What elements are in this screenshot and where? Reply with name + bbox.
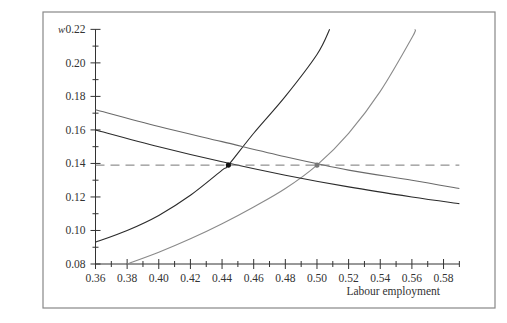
x-tick-label: 0.54 [370,272,390,284]
y-axis-title: w [58,24,65,35]
x-tick-label: 0.44 [212,272,232,284]
chart-figure: 0.360.380.400.420.440.460.480.500.520.54… [0,0,507,323]
y-tick-label: 0.08 [65,258,85,270]
x-tick-label: 0.36 [85,272,105,284]
x-tick-label: 0.52 [339,272,359,284]
x-tick-label: 0.42 [180,272,200,284]
x-tick-label: 0.58 [433,272,453,284]
equilibrium-dark-point [226,163,231,168]
x-tick-label: 0.38 [117,272,137,284]
x-tick-label: 0.48 [275,272,295,284]
x-tick-label: 0.46 [244,272,264,284]
y-tick-label: 0.22 [65,23,85,35]
x-axis-title: Labour employment [346,285,440,298]
y-tick-label: 0.14 [65,157,85,169]
x-tick-label: 0.56 [402,272,422,284]
y-tick-label: 0.18 [65,90,85,102]
x-tick-label: 0.40 [149,272,169,284]
y-tick-label: 0.16 [65,124,85,136]
equilibrium-gray-point [314,163,319,168]
y-tick-label: 0.10 [65,224,85,236]
y-tick-label: 0.20 [65,57,85,69]
y-tick-label: 0.12 [65,191,85,203]
x-tick-label: 0.50 [307,272,327,284]
